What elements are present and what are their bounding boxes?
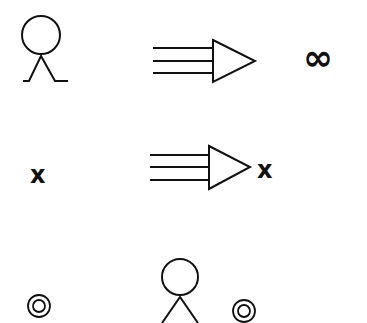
- triple-line-arrow-icon: [153, 40, 255, 82]
- triple-line-arrow-icon: [150, 146, 250, 189]
- concentric-circle-icon: [233, 300, 255, 322]
- stick-figure-icon: [22, 16, 68, 81]
- concentric-circle-icon: [28, 295, 50, 317]
- infinity-symbol: ∞: [303, 40, 333, 76]
- x-variable-right: x: [257, 158, 272, 182]
- x-variable-left: x: [30, 163, 45, 187]
- stick-figure-icon: [162, 259, 198, 323]
